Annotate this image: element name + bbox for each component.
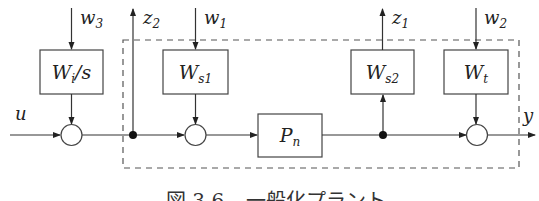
- block-ws1: Ws1: [163, 50, 228, 94]
- label-z2: z2: [142, 7, 160, 31]
- label-z1: z1: [391, 7, 409, 31]
- summing-junction-3: [467, 125, 488, 146]
- block-ws2: Ws2: [351, 50, 414, 94]
- block-pn-sub: n: [293, 135, 301, 149]
- branch-point-2: [379, 131, 387, 139]
- block-wt-main: W: [464, 61, 485, 83]
- summing-junction-2: [185, 125, 206, 146]
- generalized-plant-diagram: Wi/s Ws1 Ws2 Wt Pn: [0, 0, 539, 201]
- block-ws1-sub: s1: [198, 72, 212, 86]
- block-ws2-sub: s2: [385, 72, 399, 86]
- block-pn: Pn: [258, 114, 322, 157]
- figure-label: 図 3.6: [166, 189, 224, 201]
- figure-caption: 図 3.6一般化プラント: [166, 189, 386, 201]
- branch-point-1: [129, 131, 137, 139]
- block-wt: Wt: [444, 50, 508, 94]
- block-pn-main: P: [279, 124, 294, 146]
- block-wt-sub: t: [483, 72, 488, 86]
- figure-caption-text: 一般化プラント: [246, 189, 386, 201]
- label-w1: w1: [204, 7, 227, 31]
- label-y: y: [522, 105, 534, 126]
- label-w2: w2: [484, 7, 507, 31]
- summing-junction-1: [61, 125, 82, 146]
- block-ws2-main: W: [366, 61, 387, 83]
- label-u: u: [15, 103, 27, 124]
- block-wi-over-s: Wi/s: [40, 50, 103, 94]
- block-wi-main: W: [52, 61, 73, 83]
- block-wi-suffix: /s: [73, 61, 91, 83]
- block-ws1-main: W: [179, 61, 200, 83]
- label-w3: w3: [80, 7, 103, 31]
